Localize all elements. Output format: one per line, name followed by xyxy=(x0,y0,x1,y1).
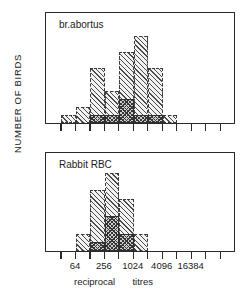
x-axis-tick xyxy=(104,124,105,131)
histogram-bar xyxy=(119,99,133,123)
x-axis-tick-label: 256 xyxy=(96,261,112,271)
x-axis-title-word1: reciprocal xyxy=(74,276,115,287)
x-axis-tick xyxy=(75,124,76,131)
histogram-bar xyxy=(163,115,177,123)
histogram-bar xyxy=(105,216,119,251)
x-axis-tick xyxy=(205,124,206,131)
x-axis-tick xyxy=(104,252,105,259)
x-axis-tick xyxy=(191,252,192,259)
x-axis-tick xyxy=(162,124,163,131)
x-axis-tick xyxy=(133,124,134,131)
x-axis-tick xyxy=(176,124,177,131)
panel-title-top: br.abortus xyxy=(59,19,103,30)
x-axis-tick xyxy=(60,252,61,259)
histogram-bar xyxy=(90,242,104,251)
x-axis-tick xyxy=(147,252,148,259)
x-axis-title-word2: titres xyxy=(132,276,153,287)
x-axis-tick xyxy=(89,252,90,259)
histogram-bar xyxy=(61,115,75,123)
histogram-bar xyxy=(148,115,162,123)
x-axis-tick xyxy=(220,124,221,131)
figure-root: NUMBER OF BIRDS br.abortus 246810 Rabbit… xyxy=(0,0,246,291)
x-axis-tick-label: 16384 xyxy=(177,261,203,271)
histogram-bar xyxy=(134,115,148,123)
y-axis-title: NUMBER OF BIRDS xyxy=(12,44,23,164)
chart-panel-rabbit-rbc: Rabbit RBC xyxy=(45,152,235,252)
histogram-bar xyxy=(76,107,90,123)
x-axis-tick xyxy=(60,124,61,131)
plot-area-bottom xyxy=(46,168,234,251)
histogram-bar xyxy=(134,234,148,251)
histogram-bar xyxy=(76,234,90,251)
x-axis-tick xyxy=(191,124,192,131)
x-axis-tick-label: 4096 xyxy=(151,261,172,271)
histogram-bar xyxy=(105,115,119,123)
x-axis-tick xyxy=(118,252,119,259)
x-axis-title: reciprocal titres xyxy=(74,276,153,287)
x-axis-tick xyxy=(162,252,163,259)
x-axis-tick-label: 64 xyxy=(70,261,81,271)
x-axis-tick-label: 1024 xyxy=(122,261,143,271)
x-axis-tick xyxy=(75,252,76,259)
x-axis-tick xyxy=(205,252,206,259)
x-axis-tick xyxy=(118,124,119,131)
histogram-bar xyxy=(119,234,133,251)
histogram-bar xyxy=(134,36,148,123)
x-axis-tick xyxy=(147,124,148,131)
histogram-bar xyxy=(90,115,104,123)
chart-panel-br-abortus: br.abortus xyxy=(45,12,235,124)
x-axis-tick xyxy=(220,252,221,259)
x-axis-tick xyxy=(89,124,90,131)
plot-area-top xyxy=(46,30,234,123)
x-axis-tick xyxy=(133,252,134,259)
x-axis-tick xyxy=(176,252,177,259)
